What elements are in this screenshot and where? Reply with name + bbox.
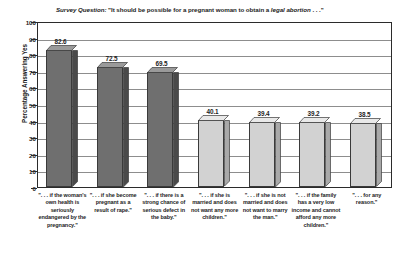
bar-side-face (325, 122, 330, 187)
bar-value-label: 69.5 (139, 60, 185, 67)
chart-title: Survey Question: "It should be possible … (56, 6, 396, 14)
x-axis-category-label: ". . . if she become pregnant as a resul… (89, 192, 138, 214)
y-axis-tick-mark (31, 188, 37, 189)
bar-value-label: 82.6 (38, 38, 84, 45)
bar-value-label: 38.5 (342, 111, 388, 118)
bar-value-label: 39.2 (291, 110, 337, 117)
bar-side-face (376, 123, 381, 187)
bar-value-label: 40.1 (190, 108, 236, 115)
bar (46, 45, 77, 187)
bar-value-label: 72.5 (89, 55, 135, 62)
chart-title-lead: Survey Question: (56, 6, 106, 13)
bar-top-face (299, 117, 330, 122)
bar-front-face (249, 122, 275, 187)
gridline (38, 73, 391, 74)
bar-top-face (350, 118, 381, 123)
x-axis-category-label: ". . . if she is not married and does no… (241, 192, 290, 222)
x-axis-category-label: ". . . if the family has a very low inco… (291, 192, 340, 229)
bar-top-face (97, 62, 128, 67)
bar (350, 118, 381, 187)
bar (147, 67, 178, 187)
bar (198, 115, 229, 187)
bar-side-face (173, 72, 178, 187)
x-axis-category-label: ". . . if the woman's own health is seri… (38, 192, 87, 229)
gridline (38, 106, 391, 107)
bar-side-face (224, 120, 229, 187)
bar-front-face (46, 50, 72, 187)
bar-side-face (123, 67, 128, 187)
plot-area (37, 22, 392, 188)
bar-side-face (72, 50, 77, 187)
bar-front-face (198, 120, 224, 187)
bar (97, 62, 128, 187)
chart-title-emphasis: legal abortion (271, 6, 311, 13)
bar-front-face (350, 123, 376, 187)
bar-front-face (97, 67, 123, 187)
bar-front-face (299, 122, 325, 187)
bar-top-face (147, 67, 178, 72)
x-axis-category-label: ". . . if she is married and does not wa… (190, 192, 239, 222)
bar-top-face (46, 45, 77, 50)
chart-title-plain-1: "It should be possible for a pregnant wo… (106, 6, 270, 13)
gridline (38, 89, 391, 90)
x-axis-category-label: ". . . for any reason." (342, 192, 391, 207)
bar (299, 117, 330, 187)
bar-side-face (275, 122, 280, 187)
bar-front-face (147, 72, 173, 187)
bar-value-label: 39.4 (241, 110, 287, 117)
bar-top-face (249, 117, 280, 122)
x-axis-category-label: ". . . if there is a strong chance of se… (139, 192, 188, 222)
chart-title-plain-2: . . ." (311, 6, 324, 13)
chart-screenshot: Survey Question: "It should be possible … (0, 0, 400, 263)
bar (249, 117, 280, 187)
gridline (38, 40, 391, 41)
bar-top-face (198, 115, 229, 120)
